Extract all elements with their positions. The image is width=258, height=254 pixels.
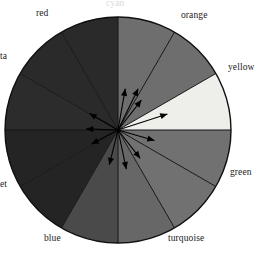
label-magenta: ta [0, 52, 7, 62]
label-blue: blue [44, 234, 61, 244]
color-wheel-figure: cyan red orange yellow green turquoise b… [0, 0, 258, 254]
label-violet: et [0, 180, 7, 190]
label-green: green [230, 168, 252, 178]
label-red: red [36, 9, 48, 19]
label-turquoise: turquoise [168, 234, 204, 244]
label-orange: orange [181, 11, 207, 21]
label-cyan: cyan [106, 0, 124, 9]
label-yellow: yellow [228, 63, 254, 73]
color-wheel-svg [0, 0, 258, 254]
